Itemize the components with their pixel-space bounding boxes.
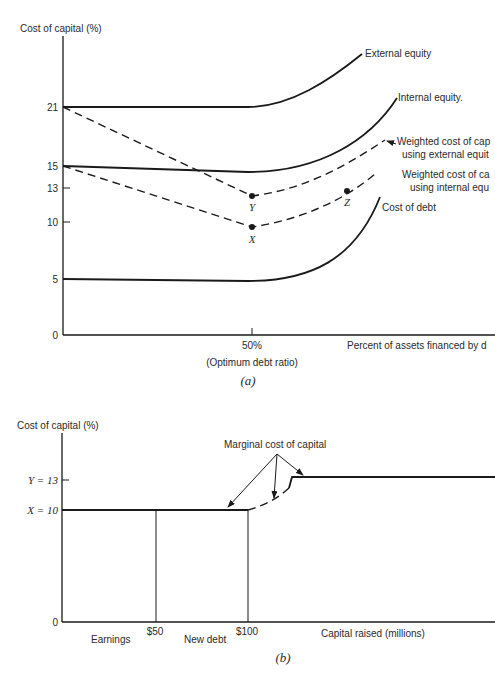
xtick-100: $100 [236,626,259,637]
ytick-5: 5 [52,274,58,285]
ytick-0: 0 [52,330,58,341]
xtick-50: $50 [147,626,164,637]
curve-wacc-internal [63,166,376,227]
chart-a: Cost of capital (%) 21 15 13 10 5 0 50% … [20,23,495,388]
x-sublabel-optimum: (Optimum debt ratio) [206,357,298,368]
annotation-mcc: Marginal cost of capital [224,439,326,450]
mcc-segment-rising [248,488,289,510]
label-wacc-external-2: using external equit [402,149,489,160]
region-new-debt: New debt [184,634,226,645]
chart-b-xlabel: Capital raised (millions) [321,628,425,639]
ytick-zero: 0 [52,617,58,628]
figure-canvas: Cost of capital (%) 21 15 13 10 5 0 50% … [0,0,495,679]
ytick-y13: Y = 13 [28,474,59,486]
chart-b-ylabel: Cost of capital (%) [17,420,99,431]
label-wacc-external-1: Weighted cost of cap [397,136,491,147]
label-wacc-internal-1: Weighted cost of ca [402,169,490,180]
curve-cost-of-debt [63,197,380,281]
point-x [249,224,255,230]
point-x-label: X [248,233,257,245]
caption-a: (a) [240,373,255,388]
point-z [344,188,350,194]
label-cost-of-debt: Cost of debt [382,202,436,213]
ytick-13: 13 [47,183,59,194]
ytick-x10: X = 10 [26,504,58,516]
chart-b: Cost of capital (%) Y = 13 X = 10 0 Marg… [17,420,495,665]
point-y-label: Y [249,201,257,213]
ytick-15: 15 [47,161,59,172]
xtick-50pct: 50% [242,340,262,351]
label-wacc-internal-2: using internal equ [410,182,489,193]
point-y [249,193,255,199]
caption-b: (b) [275,650,290,665]
mcc-segment-flat-high [289,477,495,488]
chart-a-ylabel: Cost of capital (%) [20,23,102,34]
chart-a-yticks: 21 15 13 10 5 0 [47,102,70,341]
curve-external-equity [63,54,362,107]
ytick-10: 10 [47,217,59,228]
region-earnings: Earnings [91,634,130,645]
label-internal-equity: Internal equity. [398,92,463,103]
ytick-21: 21 [47,102,59,113]
label-external-equity: External equity [365,48,431,59]
curve-internal-equity [63,98,397,172]
chart-a-xlabel: Percent of assets financed by d [347,340,487,351]
point-z-label: Z [344,196,351,208]
